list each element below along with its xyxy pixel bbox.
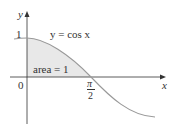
area-label: area = 1 <box>33 64 69 75</box>
x-axis-label: x <box>162 80 167 91</box>
cosine-plot <box>0 0 179 131</box>
y-tick-label: 1 <box>16 29 22 40</box>
origin-label: 0 <box>18 80 24 91</box>
equation-label: y = cos x <box>50 29 90 40</box>
x-tick-two: 2 <box>88 91 93 101</box>
x-tick-pi: π <box>87 79 92 89</box>
y-axis-arrow-icon <box>25 11 30 17</box>
y-axis-label: y <box>18 9 23 20</box>
